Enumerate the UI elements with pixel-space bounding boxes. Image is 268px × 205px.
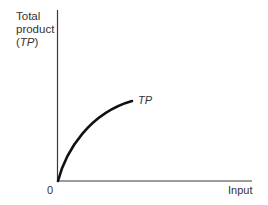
tp-curve-label: TP: [138, 94, 152, 106]
tp-curve: [58, 101, 132, 181]
chart-plot-area: [0, 0, 268, 205]
origin-label: 0: [47, 184, 53, 196]
x-axis-label: Input: [228, 184, 252, 196]
